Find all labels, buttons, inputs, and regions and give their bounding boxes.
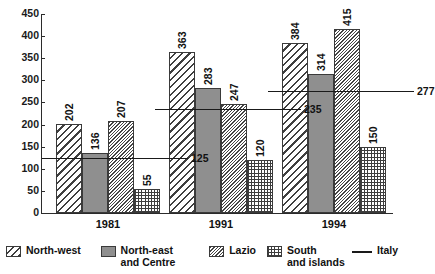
italy-reference-line [268,91,414,92]
bar [56,124,82,213]
bar [247,160,273,213]
bar-group: 384314415150 [282,14,386,213]
plot-area: 20213620755363283247120384314415150 [41,14,393,213]
legend-label-south-and-islands: Southand islands [287,245,345,268]
bar-group: 363283247120 [169,14,273,213]
bar-value-label: 202 [64,103,74,121]
bar-value-label: 55 [142,174,152,186]
bar-value-label: 120 [255,139,265,157]
bar-value-label: 314 [316,54,326,72]
dense-diagonal-hatch-swatch-icon [209,246,224,257]
bar-value-label: 363 [177,32,187,50]
legend-label-italy: Italy [377,245,398,257]
y-tick-label: 150 [0,142,39,151]
x-tick-label: 1991 [169,218,273,230]
legend-label-lazio: Lazio [229,245,256,257]
y-tick-label: 0 [0,208,39,217]
bar-value-label: 415 [342,9,352,27]
bar-value-label: 136 [90,132,100,150]
y-tick-label: 100 [0,164,39,173]
italy-reference-line [155,109,301,110]
legend-item-lazio: Lazio [209,245,267,257]
italy-reference-value: 235 [304,104,322,114]
legend-item-north-west: North-west [6,245,101,257]
y-tick-label: 50 [0,186,39,195]
bar [282,43,308,213]
legend-item-italy: Italy [352,245,398,257]
bar-value-label: 283 [203,67,213,85]
solid-gray-swatch-icon [101,246,116,257]
bar-value-label: 150 [368,126,378,144]
x-axis-line [41,213,393,214]
bar [169,52,195,213]
bar-group: 20213620755 [56,14,160,213]
legend-item-north-east-and-centre: North-eastand Centre [101,245,210,268]
italy-reference-value: 277 [417,86,435,96]
bar [195,88,221,213]
y-tick-label: 300 [0,75,39,84]
italy-reference-value: 125 [191,153,209,163]
x-tick-label: 1994 [282,218,386,230]
bar [134,189,160,213]
legend-item-south-and-islands: Southand islands [267,245,352,268]
chart-legend: North-west North-eastand Centre Lazio So… [6,245,398,273]
bar [334,29,360,213]
y-tick-mark [41,213,45,214]
bar [108,121,134,213]
bar [308,74,334,213]
grid-hatch-swatch-icon [267,246,282,257]
y-tick-label: 450 [0,9,39,18]
y-tick-label: 350 [0,53,39,62]
bar [221,104,247,213]
y-tick-label: 400 [0,31,39,40]
italy-reference-line [42,158,188,159]
bar [82,153,108,213]
bar-value-label: 207 [116,101,126,119]
bar-value-label: 247 [229,83,239,101]
legend-label-north-east-and-centre: North-eastand Centre [121,245,176,268]
legend-label-north-west: North-west [26,245,81,257]
bar [360,147,386,213]
y-tick-label: 250 [0,97,39,106]
y-tick-label: 200 [0,120,39,129]
reference-line-swatch-icon [352,251,372,253]
diagonal-hatch-swatch-icon [6,246,21,257]
bar-value-label: 384 [290,23,300,41]
x-tick-label: 1981 [56,218,160,230]
